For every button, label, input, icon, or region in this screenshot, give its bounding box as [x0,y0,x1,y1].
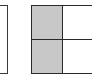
grid-cell-r0-c1 [63,6,92,40]
left-box [0,5,8,74]
two-by-two-grid [31,5,92,74]
grid-cell-r1-c0-shaded [32,40,63,73]
grid-cell-r1-c1 [63,40,92,73]
grid-cell-r0-c0-shaded [32,6,63,40]
diagram-canvas [0,0,92,82]
